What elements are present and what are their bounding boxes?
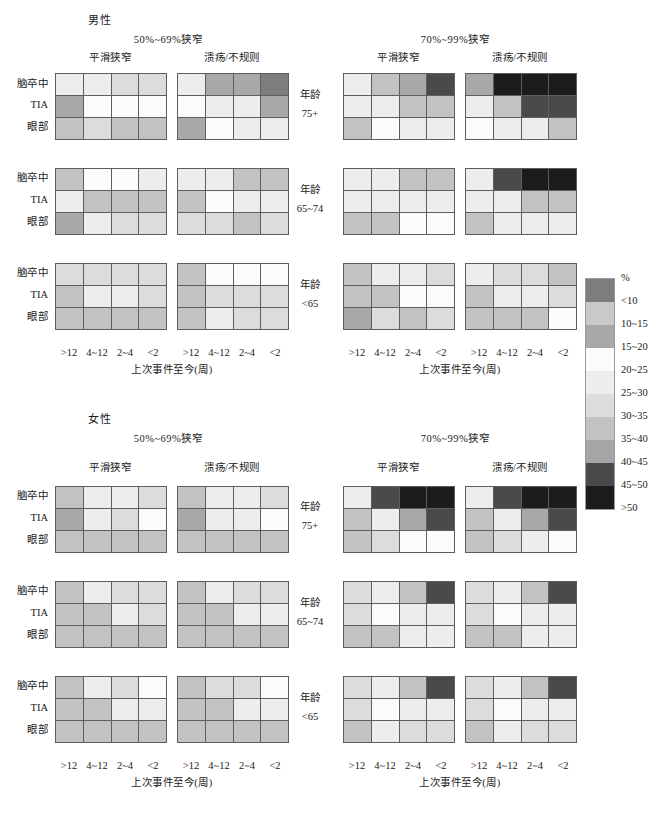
heatmap-cell[interactable] <box>112 531 139 552</box>
heatmap-panel[interactable] <box>177 676 289 743</box>
heatmap-panel[interactable] <box>343 73 455 140</box>
heatmap-cell[interactable] <box>522 721 549 742</box>
heatmap-cell[interactable] <box>494 487 521 508</box>
heatmap-cell[interactable] <box>522 169 549 190</box>
heatmap-cell[interactable] <box>427 118 454 139</box>
heatmap-cell[interactable] <box>427 191 454 212</box>
heatmap-cell[interactable] <box>344 213 371 234</box>
heatmap-cell[interactable] <box>56 118 83 139</box>
heatmap-cell[interactable] <box>56 191 83 212</box>
heatmap-cell[interactable] <box>206 264 233 285</box>
heatmap-cell[interactable] <box>522 118 549 139</box>
heatmap-cell[interactable] <box>372 626 399 647</box>
heatmap-cell[interactable] <box>466 699 493 720</box>
heatmap-cell[interactable] <box>261 604 288 625</box>
heatmap-cell[interactable] <box>178 74 205 95</box>
heatmap-cell[interactable] <box>112 213 139 234</box>
heatmap-cell[interactable] <box>427 74 454 95</box>
heatmap-panel[interactable] <box>465 168 577 235</box>
heatmap-cell[interactable] <box>400 531 427 552</box>
heatmap-cell[interactable] <box>261 582 288 603</box>
heatmap-panel[interactable] <box>55 73 167 140</box>
heatmap-cell[interactable] <box>261 699 288 720</box>
heatmap-cell[interactable] <box>522 96 549 117</box>
heatmap-cell[interactable] <box>234 721 261 742</box>
heatmap-cell[interactable] <box>206 721 233 742</box>
heatmap-cell[interactable] <box>344 487 371 508</box>
heatmap-cell[interactable] <box>549 118 576 139</box>
heatmap-cell[interactable] <box>206 677 233 698</box>
heatmap-cell[interactable] <box>466 308 493 329</box>
heatmap-cell[interactable] <box>372 169 399 190</box>
heatmap-cell[interactable] <box>234 531 261 552</box>
heatmap-cell[interactable] <box>427 509 454 530</box>
heatmap-cell[interactable] <box>178 582 205 603</box>
heatmap-cell[interactable] <box>178 604 205 625</box>
heatmap-cell[interactable] <box>84 169 111 190</box>
heatmap-cell[interactable] <box>206 96 233 117</box>
heatmap-cell[interactable] <box>139 604 166 625</box>
heatmap-panel[interactable] <box>343 486 455 553</box>
heatmap-cell[interactable] <box>84 264 111 285</box>
heatmap-cell[interactable] <box>549 191 576 212</box>
heatmap-cell[interactable] <box>400 721 427 742</box>
heatmap-cell[interactable] <box>372 118 399 139</box>
heatmap-panel[interactable] <box>55 263 167 330</box>
heatmap-cell[interactable] <box>466 721 493 742</box>
heatmap-cell[interactable] <box>522 286 549 307</box>
heatmap-cell[interactable] <box>400 118 427 139</box>
heatmap-cell[interactable] <box>344 74 371 95</box>
heatmap-cell[interactable] <box>139 699 166 720</box>
heatmap-cell[interactable] <box>234 213 261 234</box>
heatmap-cell[interactable] <box>549 308 576 329</box>
heatmap-cell[interactable] <box>522 677 549 698</box>
heatmap-cell[interactable] <box>427 626 454 647</box>
heatmap-cell[interactable] <box>261 677 288 698</box>
heatmap-cell[interactable] <box>178 286 205 307</box>
heatmap-cell[interactable] <box>206 118 233 139</box>
heatmap-cell[interactable] <box>427 721 454 742</box>
heatmap-cell[interactable] <box>84 721 111 742</box>
heatmap-cell[interactable] <box>234 169 261 190</box>
heatmap-cell[interactable] <box>372 96 399 117</box>
heatmap-cell[interactable] <box>344 604 371 625</box>
heatmap-cell[interactable] <box>234 487 261 508</box>
heatmap-cell[interactable] <box>206 509 233 530</box>
heatmap-panel[interactable] <box>177 73 289 140</box>
heatmap-cell[interactable] <box>522 213 549 234</box>
heatmap-cell[interactable] <box>549 582 576 603</box>
heatmap-cell[interactable] <box>261 509 288 530</box>
heatmap-panel[interactable] <box>465 73 577 140</box>
heatmap-cell[interactable] <box>56 582 83 603</box>
heatmap-panel[interactable] <box>177 168 289 235</box>
heatmap-cell[interactable] <box>494 531 521 552</box>
heatmap-cell[interactable] <box>139 286 166 307</box>
heatmap-cell[interactable] <box>522 264 549 285</box>
heatmap-cell[interactable] <box>427 604 454 625</box>
heatmap-panel[interactable] <box>465 486 577 553</box>
heatmap-cell[interactable] <box>84 604 111 625</box>
heatmap-cell[interactable] <box>522 699 549 720</box>
heatmap-cell[interactable] <box>56 74 83 95</box>
heatmap-cell[interactable] <box>84 487 111 508</box>
heatmap-cell[interactable] <box>494 699 521 720</box>
heatmap-cell[interactable] <box>261 74 288 95</box>
heatmap-panel[interactable] <box>465 676 577 743</box>
heatmap-cell[interactable] <box>344 531 371 552</box>
heatmap-cell[interactable] <box>234 96 261 117</box>
heatmap-cell[interactable] <box>206 169 233 190</box>
heatmap-cell[interactable] <box>84 191 111 212</box>
heatmap-panel[interactable] <box>177 581 289 648</box>
heatmap-panel[interactable] <box>343 676 455 743</box>
heatmap-cell[interactable] <box>466 213 493 234</box>
heatmap-cell[interactable] <box>139 118 166 139</box>
heatmap-cell[interactable] <box>466 677 493 698</box>
heatmap-cell[interactable] <box>261 96 288 117</box>
heatmap-cell[interactable] <box>372 531 399 552</box>
heatmap-cell[interactable] <box>494 96 521 117</box>
heatmap-cell[interactable] <box>206 308 233 329</box>
heatmap-cell[interactable] <box>549 213 576 234</box>
heatmap-cell[interactable] <box>112 308 139 329</box>
heatmap-cell[interactable] <box>344 509 371 530</box>
heatmap-cell[interactable] <box>261 213 288 234</box>
